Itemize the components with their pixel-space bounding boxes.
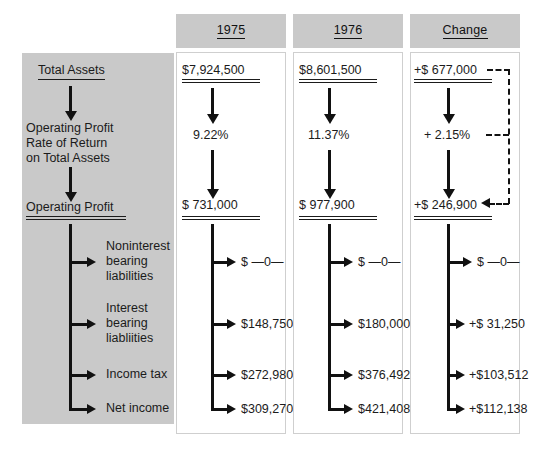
label-ror-line1: Operating Profit	[26, 121, 114, 136]
label-net-income: Net income	[106, 401, 169, 416]
dashed-connector-to-operating-profit	[489, 203, 509, 205]
branch-head-1976-interest	[344, 319, 353, 329]
rule-total-assets-1975	[182, 79, 260, 83]
column-header-1975: 1975	[176, 14, 286, 48]
column-header-change: Change	[410, 14, 520, 48]
branch-1976-noninterest	[328, 261, 345, 264]
label-interest-line1: Interest	[106, 301, 148, 316]
label-noninterest-line1: Noninterest	[106, 239, 170, 254]
label-interest-line2: bearing	[106, 316, 148, 331]
column-spine-1975	[211, 224, 214, 411]
value-income-tax-change: +$103,512	[469, 368, 528, 383]
label-total-assets: Total Assets	[38, 63, 105, 80]
column-header-1976: 1976	[293, 14, 403, 48]
value-noninterest-change: $ —0—	[477, 255, 519, 270]
branch-head-1976-income-tax	[344, 370, 353, 380]
branch-head-1975-interest	[227, 319, 236, 329]
value-interest-change: +$ 31,250	[469, 317, 525, 332]
value-net-income-1976: $421,408	[358, 402, 410, 417]
label-income-tax: Income tax	[106, 367, 167, 382]
column-spine-1976	[328, 224, 331, 411]
label-ror-line3: on Total Assets	[26, 151, 110, 166]
column-header-change-label: Change	[443, 24, 488, 39]
branch-head-noninterest	[87, 257, 96, 267]
diagram-canvas: Total Assets Operating Profit Rate of Re…	[0, 0, 538, 458]
column-spine-change	[447, 224, 450, 411]
dashed-connector-from-ror	[486, 134, 509, 136]
label-noninterest-line3: liabilities	[106, 269, 153, 284]
branch-1976-net-income	[328, 408, 345, 411]
rule-operating-profit-change	[414, 216, 492, 220]
value-operating-profit-1975: $ 731,000	[182, 198, 238, 213]
column-header-1975-label: 1975	[217, 24, 246, 39]
dashed-connector-from-total-assets	[487, 69, 510, 71]
value-net-income-change: +$112,138	[469, 402, 528, 417]
dashed-connector-vertical	[508, 69, 510, 204]
value-noninterest-1976: $ —0—	[358, 255, 400, 270]
value-net-income-1975: $309,270	[241, 402, 293, 417]
branch-income-tax	[69, 374, 88, 377]
branch-head-1975-net-income	[227, 404, 236, 414]
rule-operating-profit-1975	[182, 216, 260, 220]
branch-1975-interest	[211, 323, 228, 326]
rule-operating-profit-1976	[299, 216, 377, 220]
branch-head-net-income	[87, 404, 96, 414]
branch-head-1976-noninterest	[344, 257, 353, 267]
rule-total-assets-change	[414, 79, 492, 83]
value-total-assets-1975: $7,924,500	[182, 63, 245, 78]
branch-1975-net-income	[211, 408, 228, 411]
value-total-assets-change: +$ 677,000	[414, 63, 477, 78]
value-ror-change: + 2.15%	[424, 128, 470, 143]
label-noninterest-line2: bearing	[106, 254, 148, 269]
branch-1975-income-tax	[211, 374, 228, 377]
branch-1975-noninterest	[211, 261, 228, 264]
value-ror-1976: 11.37%	[308, 128, 349, 143]
dashed-connector-arrowhead	[481, 198, 490, 208]
column-header-1976-label: 1976	[334, 24, 363, 39]
value-interest-1976: $180,000	[358, 317, 410, 332]
branch-1976-income-tax	[328, 374, 345, 377]
rule-operating-profit	[26, 216, 126, 220]
label-panel-spine	[69, 224, 72, 411]
rule-total-assets-1976	[299, 79, 377, 83]
branch-net-income	[69, 408, 88, 411]
branch-head-change-net-income	[456, 404, 465, 414]
label-ror-line2: Rate of Return	[26, 136, 107, 151]
branch-head-change-noninterest	[463, 257, 472, 267]
label-interest-line3: liabliities	[106, 331, 153, 346]
value-total-assets-1976: $8,601,500	[299, 63, 362, 78]
branch-change-noninterest	[447, 261, 464, 264]
branch-1976-interest	[328, 323, 345, 326]
branch-head-change-interest	[456, 319, 465, 329]
branch-interest	[69, 323, 88, 326]
value-income-tax-1976: $376,492	[358, 368, 410, 383]
value-operating-profit-1976: $ 977,900	[299, 198, 355, 213]
value-noninterest-1975: $ —0—	[241, 255, 283, 270]
branch-head-change-income-tax	[456, 370, 465, 380]
branch-noninterest	[69, 261, 88, 264]
branch-head-income-tax	[87, 370, 96, 380]
branch-head-1975-noninterest	[227, 257, 236, 267]
value-interest-1975: $148,750	[241, 317, 293, 332]
branch-head-1975-income-tax	[227, 370, 236, 380]
value-income-tax-1975: $272,980	[241, 368, 293, 383]
branch-head-1976-net-income	[344, 404, 353, 414]
label-operating-profit: Operating Profit	[26, 200, 114, 215]
branch-head-interest	[87, 319, 96, 329]
value-ror-1975: 9.22%	[193, 128, 228, 143]
value-operating-profit-change: +$ 246,900	[414, 198, 477, 213]
